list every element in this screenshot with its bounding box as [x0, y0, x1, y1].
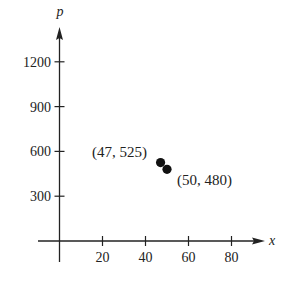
x-axis-label: x: [268, 233, 276, 248]
x-tick-label: 40: [139, 250, 153, 265]
scatter-chart: 204060803006009001200 xp(47, 525)(50, 48…: [0, 0, 285, 286]
y-tick-label: 600: [30, 144, 51, 159]
y-tick-label: 300: [30, 189, 51, 204]
data-points: [156, 158, 172, 174]
data-point-label: (50, 480): [177, 172, 232, 189]
axes: [38, 27, 265, 262]
labels: xp(47, 525)(50, 480): [56, 4, 277, 248]
y-axis-label: p: [56, 4, 64, 19]
data-point-label: (47, 525): [92, 144, 147, 161]
x-tick-label: 60: [182, 250, 196, 265]
y-tick-label: 1200: [23, 55, 51, 70]
x-tick-label: 80: [225, 250, 239, 265]
data-point: [156, 158, 165, 167]
x-tick-label: 20: [96, 250, 110, 265]
y-tick-label: 900: [30, 100, 51, 115]
data-point: [162, 165, 171, 174]
